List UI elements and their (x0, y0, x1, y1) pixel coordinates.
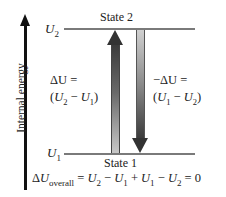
level-label-u2: U2 (45, 21, 59, 39)
delta-u-line1: ΔU = (50, 72, 98, 89)
delta-u-annotation: ΔU = (U2 − U1) (50, 72, 98, 111)
increase-arrow-shaft (111, 44, 120, 153)
axis-label: Internal energy (15, 53, 27, 143)
delta-u-line2: (U2 − U1) (50, 89, 98, 111)
level-label-u1: U1 (47, 145, 61, 163)
energy-level-upper (64, 28, 195, 30)
equation-rhs: = U2 − U1 + U1 − U2 = 0 (74, 171, 201, 185)
decrease-arrow-shaft (136, 30, 145, 139)
neg-delta-u-line1: −ΔU = (153, 72, 201, 89)
state-1-label: State 1 (104, 156, 137, 171)
up-arrow-icon (107, 30, 123, 45)
energy-axis-arrowhead-icon (20, 14, 30, 26)
down-arrow-icon (132, 138, 148, 153)
state-2-label: State 2 (100, 10, 133, 25)
overall-equation: ΔUoverall = U2 − U1 + U1 − U2 = 0 (32, 171, 201, 188)
neg-delta-u-line2: (U1 − U2) (153, 89, 201, 111)
neg-delta-u-annotation: −ΔU = (U1 − U2) (153, 72, 201, 111)
energy-level-lower (64, 153, 195, 155)
